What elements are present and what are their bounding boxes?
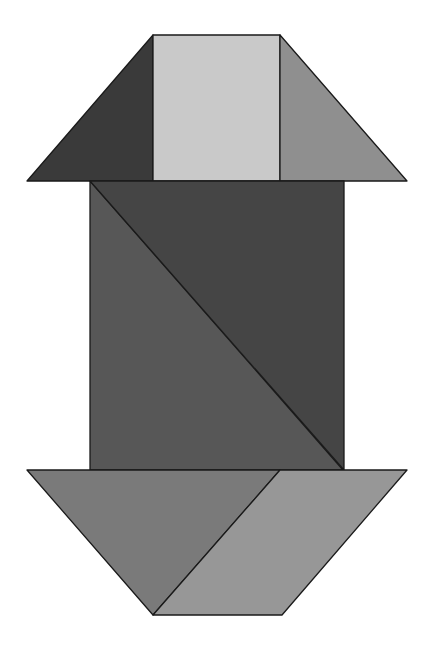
tangram-figure [0,0,434,656]
top-right-triangle [280,35,407,181]
top-square [153,35,280,181]
top-left-triangle [27,35,153,181]
tangram-svg [0,0,434,656]
